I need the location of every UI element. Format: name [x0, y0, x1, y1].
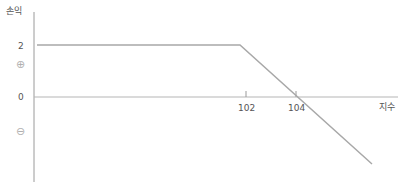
payoff-chart: 손익 2 0 ⊕ ⊖ 102 104 지수: [0, 0, 414, 196]
x-tick-label-104: 104: [288, 103, 305, 113]
payoff-line: [37, 45, 372, 164]
x-axis-label: 지수: [379, 102, 395, 112]
y-tick-label-0: 0: [18, 92, 24, 102]
x-tick-label-102: 102: [238, 103, 255, 113]
minus-circle-icon: ⊖: [16, 125, 25, 138]
y-tick-label-2: 2: [18, 41, 24, 51]
plus-circle-icon: ⊕: [16, 58, 25, 71]
y-axis-label: 손익: [6, 5, 22, 16]
